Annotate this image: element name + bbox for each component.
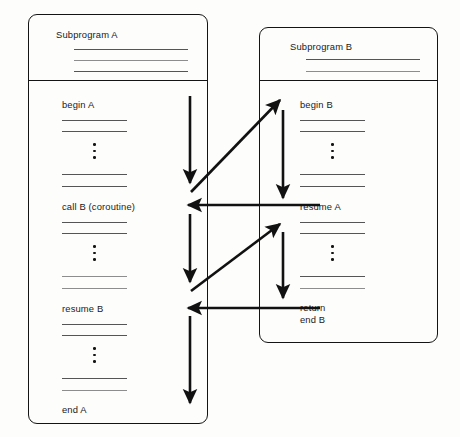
subprogram-a-code-rule bbox=[62, 233, 127, 234]
subprogram-b-code-rule bbox=[300, 233, 365, 234]
subprogram-a-code-rule bbox=[62, 120, 127, 121]
subprogram-b-title: Subprogram B bbox=[290, 41, 352, 53]
subprogram-a-header-rule bbox=[74, 49, 188, 50]
subprogram-a-code-rule bbox=[62, 378, 127, 379]
subprogram-b-stmt-resume-a: resume A bbox=[300, 201, 341, 213]
subprogram-b-code-rule bbox=[300, 288, 365, 289]
subprogram-b-code-rule bbox=[300, 174, 365, 175]
subprogram-a-ellipsis bbox=[93, 347, 96, 363]
subprogram-b-box bbox=[259, 27, 438, 343]
subprogram-b-code-rule bbox=[300, 131, 365, 132]
subprogram-a-code-rule bbox=[62, 335, 127, 336]
subprogram-a-code-rule bbox=[62, 131, 127, 132]
subprogram-a-ellipsis bbox=[93, 143, 96, 159]
subprogram-b-stmt-return-end: return end B bbox=[300, 302, 325, 325]
diagram-canvas: Subprogram A begin A call B (coroutine) … bbox=[0, 0, 460, 437]
subprogram-a-code-rule bbox=[62, 186, 127, 187]
subprogram-a-code-rule bbox=[62, 276, 127, 277]
subprogram-a-code-rule bbox=[62, 174, 127, 175]
subprogram-a-stmt-call-b: call B (coroutine) bbox=[62, 201, 135, 213]
subprogram-a-ellipsis bbox=[93, 245, 96, 261]
subprogram-a-stmt-resume-b: resume B bbox=[62, 303, 103, 315]
subprogram-a-code-rule bbox=[62, 324, 127, 325]
subprogram-b-code-rule bbox=[300, 120, 365, 121]
subprogram-a-code-rule bbox=[62, 222, 127, 223]
subprogram-b-stmt-begin: begin B bbox=[300, 99, 333, 111]
subprogram-a-header-rule bbox=[74, 60, 188, 61]
subprogram-a-code-rule bbox=[62, 288, 127, 289]
subprogram-b-code-rule bbox=[300, 186, 365, 187]
subprogram-b-ellipsis bbox=[331, 143, 334, 159]
subprogram-b-header-rule bbox=[306, 59, 420, 60]
subprogram-b-code-rule bbox=[300, 276, 365, 277]
subprogram-a-stmt-end: end A bbox=[62, 404, 87, 416]
subprogram-a-stmt-begin: begin A bbox=[62, 99, 94, 111]
subprogram-a-box bbox=[28, 14, 208, 424]
subprogram-b-header-divider bbox=[259, 80, 438, 81]
subprogram-a-header-divider bbox=[28, 80, 208, 81]
subprogram-a-code-rule bbox=[62, 390, 127, 391]
subprogram-a-header-rule bbox=[74, 71, 188, 72]
subprogram-b-header-rule bbox=[306, 71, 420, 72]
subprogram-a-title: Subprogram A bbox=[56, 29, 118, 41]
subprogram-b-code-rule bbox=[300, 222, 365, 223]
subprogram-b-ellipsis bbox=[331, 245, 334, 261]
